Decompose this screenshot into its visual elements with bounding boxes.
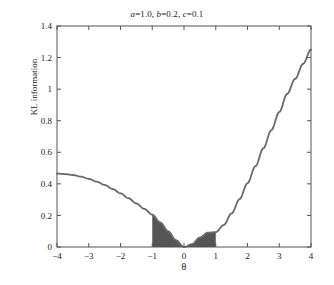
x-axis-ticks: −4−3−2−101234 (52, 26, 314, 261)
y-tick-label: 1 (48, 84, 53, 94)
shaded-region (152, 215, 216, 247)
chart-figure: a=1.0, b=0.2, c=0.1 KL information −4−3−… (0, 0, 334, 285)
x-tick-label: −3 (84, 251, 94, 261)
x-axis-label: θ (57, 261, 311, 272)
axes-frame (57, 26, 311, 247)
y-tick-label: 0.4 (41, 179, 53, 189)
x-tick-label: 0 (182, 251, 187, 261)
y-tick-label: 0.6 (41, 147, 53, 157)
y-tick-label: 0.2 (41, 211, 52, 221)
data-curve (57, 50, 311, 247)
x-tick-label: 2 (245, 251, 250, 261)
y-tick-label: 1.2 (41, 53, 52, 63)
y-tick-label: 0 (48, 242, 53, 252)
x-tick-label: −2 (116, 251, 126, 261)
x-tick-label: −1 (147, 251, 157, 261)
x-tick-label: −4 (52, 251, 62, 261)
x-tick-label: 3 (277, 251, 282, 261)
x-tick-label: 4 (309, 251, 314, 261)
x-tick-label: 1 (214, 251, 219, 261)
y-tick-label: 0.8 (41, 116, 53, 126)
y-tick-label: 1.4 (41, 21, 53, 31)
y-axis-ticks: 00.20.40.60.811.21.4 (41, 21, 311, 252)
plot-area: −4−3−2−101234 00.20.40.60.811.21.4 (0, 0, 334, 285)
